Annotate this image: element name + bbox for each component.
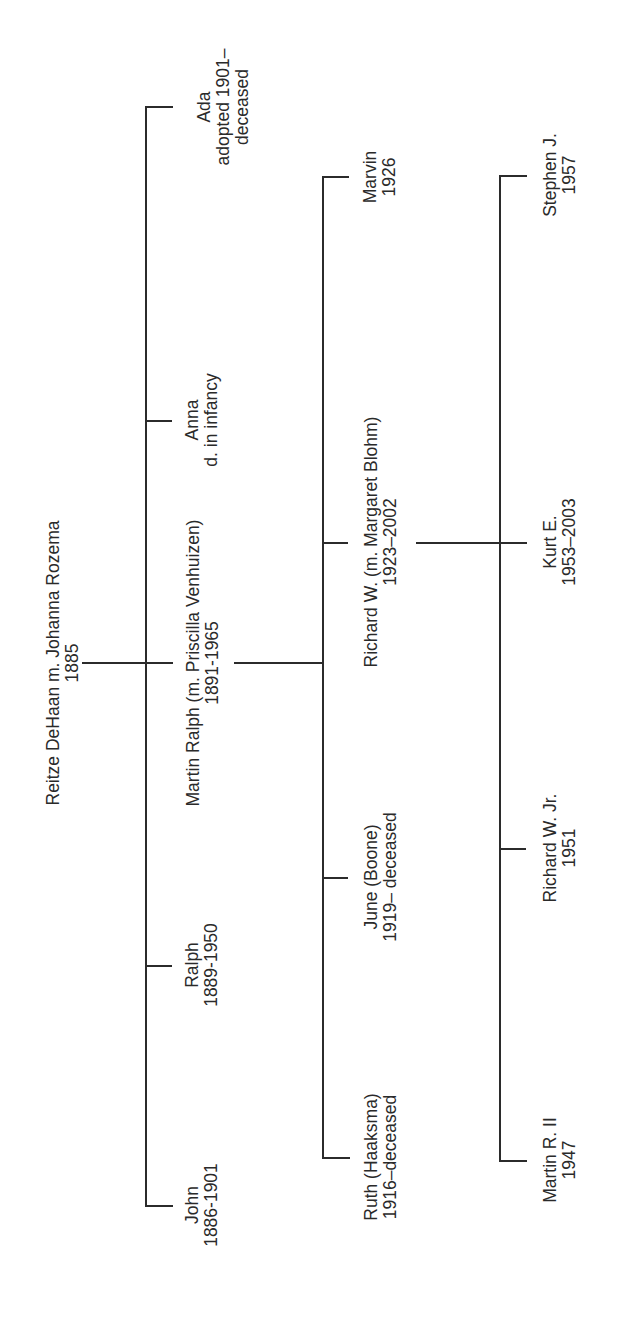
person-name: Ada — [195, 49, 214, 166]
person-reitze-dehaan: Reitze DeHaan m. Johanna Rozema 1885 — [44, 520, 82, 805]
person-name: Ralph — [183, 923, 202, 1007]
person-name: Richard W. (m. Margaret Blohm) — [362, 417, 381, 668]
bracket-generation-2 — [322, 177, 324, 1158]
person-name: Stephen J. — [541, 133, 560, 217]
person-june: June (Boone) 1919– deceased — [362, 812, 400, 941]
person-stephen-j: Stephen J. 1957 — [541, 133, 579, 217]
tick-marvin — [322, 176, 349, 178]
person-dates: 1889-1950 — [202, 923, 221, 1007]
tick-richard-jr — [499, 848, 526, 850]
person-name: Anna — [183, 373, 202, 466]
person-name: John — [183, 1163, 202, 1247]
person-dates: 1891-1965 — [203, 520, 222, 807]
person-ralph: Ralph 1889-1950 — [183, 923, 221, 1007]
person-martin-r-ii: Martin R. II 1947 — [541, 1117, 579, 1203]
person-name: Richard W. Jr. — [541, 794, 560, 903]
person-note: adopted 1901– — [214, 49, 233, 166]
person-ada: Ada adopted 1901– deceased — [195, 49, 252, 166]
tick-ruth — [322, 1157, 350, 1159]
person-kurt-e: Kurt E. 1953–2003 — [541, 498, 579, 586]
person-dates: 1953–2003 — [560, 498, 579, 586]
tick-stephen — [499, 175, 527, 177]
bracket-generation-3 — [499, 175, 501, 1161]
person-name: Ruth (Haaksma) — [362, 1093, 381, 1220]
tick-june — [322, 877, 348, 879]
person-name: Kurt E. — [541, 498, 560, 586]
bracket-generation-1 — [145, 107, 147, 1206]
person-dates: 1947 — [560, 1117, 579, 1203]
tick-martin-ralph — [145, 662, 173, 664]
tick-martin-r-ii — [499, 1160, 527, 1162]
person-richard-w: Richard W. (m. Margaret Blohm) 1923–2002 — [362, 417, 400, 668]
tick-anna — [145, 420, 172, 422]
tick-kurt — [499, 542, 527, 544]
person-note: d. in infancy — [202, 373, 221, 466]
connector-richard-w-to-children — [416, 542, 500, 544]
person-dates: 1923–2002 — [381, 417, 400, 668]
tick-john — [145, 1205, 173, 1207]
person-name: Marvin — [361, 151, 380, 204]
person-anna: Anna d. in infancy — [183, 373, 221, 466]
person-martin-ralph: Martin Ralph (m. Priscilla Venhuizen) 18… — [184, 520, 222, 807]
person-dates: 1926 — [380, 151, 399, 204]
tick-ralph — [145, 965, 172, 967]
person-name: June (Boone) — [362, 812, 381, 941]
person-note: deceased — [233, 49, 252, 166]
connector-root-to-children — [82, 662, 146, 664]
person-name: Martin R. II — [541, 1117, 560, 1203]
person-ruth: Ruth (Haaksma) 1916–deceased — [362, 1093, 400, 1220]
person-name: Martin Ralph (m. Priscilla Venhuizen) — [184, 520, 203, 807]
person-marvin: Marvin 1926 — [361, 151, 399, 204]
person-dates: 1916–deceased — [381, 1093, 400, 1220]
person-dates: 1919– deceased — [381, 812, 400, 941]
person-dates: 1951 — [560, 794, 579, 903]
person-richard-w-jr: Richard W. Jr. 1951 — [541, 794, 579, 903]
connector-martin-ralph-to-children — [234, 662, 323, 664]
person-name: Reitze DeHaan m. Johanna Rozema — [44, 520, 63, 805]
person-dates: 1885 — [63, 520, 82, 805]
person-dates: 1957 — [560, 133, 579, 217]
person-dates: 1886-1901 — [202, 1163, 221, 1247]
person-john: John 1886-1901 — [183, 1163, 221, 1247]
tick-richard-w — [322, 542, 348, 544]
tick-ada — [145, 106, 173, 108]
